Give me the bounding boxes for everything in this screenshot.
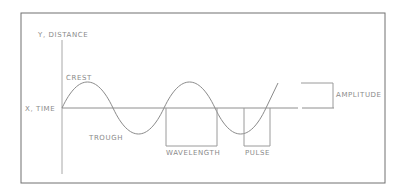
y-axis-label: Y, DISTANCE: [37, 31, 88, 39]
wavelength-label: WAVELENGTH: [166, 149, 220, 157]
wavelength-bracket: [166, 108, 217, 146]
amplitude-label: AMPLITUDE: [336, 91, 382, 99]
wave-diagram: Y, DISTANCE X, TIME CREST TROUGH WAVELEN…: [0, 0, 404, 193]
pulse-bracket: [244, 108, 270, 146]
crest-label: CREST: [66, 74, 92, 82]
x-axis-label: X, TIME: [25, 105, 55, 113]
trough-label: TROUGH: [88, 134, 123, 142]
pulse-label: PULSE: [245, 149, 270, 157]
